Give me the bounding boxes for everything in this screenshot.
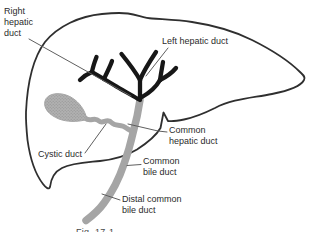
label-right-hepatic-duct: Right hepatic duct — [4, 6, 33, 39]
label-common-hepatic-duct: Common hepatic duct — [169, 125, 218, 147]
label-cystic-duct: Cystic duct — [38, 149, 82, 160]
label-left-hepatic-duct: Left hepatic duct — [162, 36, 228, 47]
label-common-bile-duct: Common bile duct — [143, 156, 180, 178]
label-distal-common-bile-duct: Distal common bile duct — [122, 194, 182, 216]
figure-caption: Fig. 17-1 — [76, 227, 114, 232]
leader-common-bile-duct — [127, 165, 141, 166]
liver-biliary-anatomy-diagram: Right hepatic duct Left hepatic duct Com… — [0, 0, 318, 232]
